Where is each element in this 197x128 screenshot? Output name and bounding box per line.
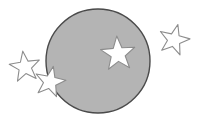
gray-disc	[46, 9, 150, 113]
figure-svg	[0, 0, 197, 128]
figure-canvas	[0, 0, 197, 128]
